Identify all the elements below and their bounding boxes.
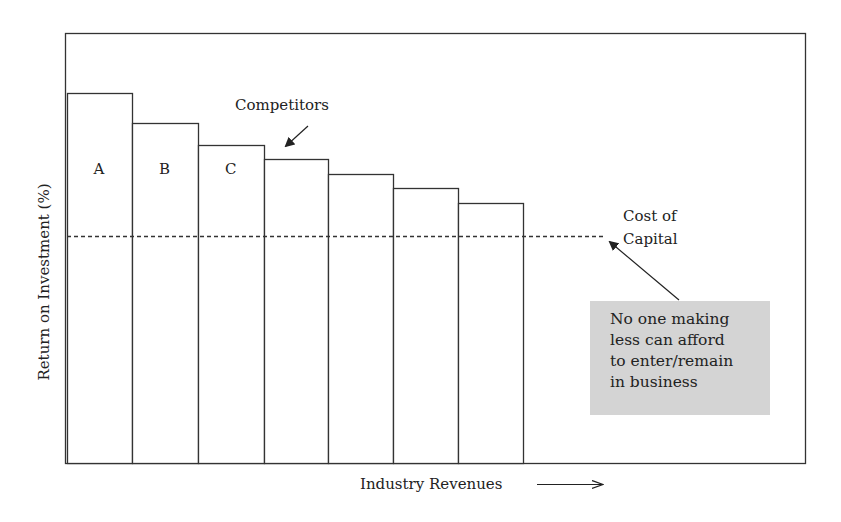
bar bbox=[394, 189, 459, 464]
note-line: in business bbox=[610, 372, 770, 393]
diagram-canvas bbox=[0, 0, 841, 522]
note-line: No one making bbox=[610, 309, 770, 330]
bar-label: A bbox=[94, 160, 105, 178]
bar bbox=[329, 175, 394, 464]
bar bbox=[68, 94, 133, 464]
bar bbox=[459, 204, 524, 464]
x-axis-label: Industry Revenues bbox=[360, 475, 502, 493]
bar bbox=[265, 160, 329, 464]
y-axis-label: Return on Investment (%) bbox=[35, 183, 53, 380]
bars-group bbox=[68, 94, 524, 464]
note-box: No one making less can afford to enter/r… bbox=[590, 301, 770, 415]
bar bbox=[199, 146, 265, 464]
bar-label: C bbox=[225, 160, 236, 178]
note-line: less can afford bbox=[610, 330, 770, 351]
bar-label: B bbox=[159, 160, 170, 178]
cost-of-capital-label-line1: Cost of bbox=[623, 207, 677, 225]
cost-of-capital-arrow-icon bbox=[610, 242, 679, 300]
competitors-arrow-icon bbox=[286, 126, 308, 146]
competitors-label: Competitors bbox=[235, 96, 329, 114]
cost-of-capital-label-line2: Capital bbox=[623, 230, 678, 248]
note-line: to enter/remain bbox=[610, 351, 770, 372]
